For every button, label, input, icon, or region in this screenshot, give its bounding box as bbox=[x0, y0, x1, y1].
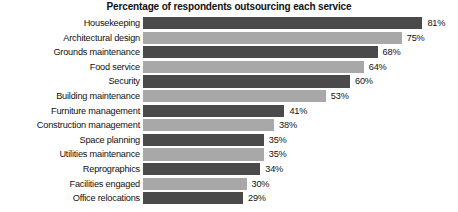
bar-row: Reprographics34% bbox=[0, 163, 458, 178]
bar-category-label: Facilities engaged bbox=[0, 178, 140, 190]
bar-row: Furniture management41% bbox=[0, 105, 458, 120]
bar-track: 81% bbox=[143, 17, 458, 29]
bar-row: Construction management38% bbox=[0, 119, 458, 134]
bar bbox=[143, 105, 284, 117]
bar-track: 38% bbox=[143, 119, 458, 131]
bar-category-label: Architectural design bbox=[0, 32, 140, 44]
bar-value-label: 34% bbox=[265, 163, 283, 175]
bar-value-label: 64% bbox=[369, 61, 387, 73]
bar-row: Food service64% bbox=[0, 61, 458, 76]
bar-category-label: Grounds maintenance bbox=[0, 46, 140, 58]
bar bbox=[143, 178, 247, 190]
bar-category-label: Building maintenance bbox=[0, 90, 140, 102]
bar-value-label: 60% bbox=[355, 75, 373, 87]
bar-category-label: Security bbox=[0, 75, 140, 87]
bar-category-label: Construction management bbox=[0, 119, 140, 131]
bar-value-label: 75% bbox=[407, 32, 425, 44]
bar-row: Security60% bbox=[0, 75, 458, 90]
bar-value-label: 35% bbox=[269, 148, 287, 160]
bar bbox=[143, 17, 422, 29]
bar-track: 75% bbox=[143, 32, 458, 44]
bar bbox=[143, 192, 243, 204]
bar-track: 29% bbox=[143, 192, 458, 204]
bar-row: Housekeeping81% bbox=[0, 17, 458, 32]
bar bbox=[143, 75, 350, 87]
bar-value-label: 29% bbox=[248, 192, 266, 204]
bar-track: 35% bbox=[143, 148, 458, 160]
bar bbox=[143, 163, 260, 175]
bar-track: 30% bbox=[143, 178, 458, 190]
bar bbox=[143, 32, 402, 44]
bar-category-label: Office relocations bbox=[0, 192, 140, 204]
chart-title: Percentage of respondents outsourcing ea… bbox=[0, 1, 458, 12]
bar-track: 53% bbox=[143, 90, 458, 102]
bar bbox=[143, 46, 378, 58]
bar-row: Grounds maintenance68% bbox=[0, 46, 458, 61]
bar-category-label: Furniture management bbox=[0, 105, 140, 117]
bar-track: 35% bbox=[143, 134, 458, 146]
bar-value-label: 35% bbox=[269, 134, 287, 146]
bar-category-label: Utilities maintenance bbox=[0, 148, 140, 160]
bar-value-label: 41% bbox=[289, 105, 307, 117]
bar bbox=[143, 119, 274, 131]
bar-category-label: Space planning bbox=[0, 134, 140, 146]
bar-row: Architectural design75% bbox=[0, 32, 458, 47]
bar-category-label: Reprographics bbox=[0, 163, 140, 175]
bar-category-label: Housekeeping bbox=[0, 17, 140, 29]
bar-track: 64% bbox=[143, 61, 458, 73]
bar-value-label: 38% bbox=[279, 119, 297, 131]
bar-chart: Percentage of respondents outsourcing ea… bbox=[0, 0, 458, 212]
chart-plot-area: Housekeeping81%Architectural design75%Gr… bbox=[0, 17, 458, 207]
bar-row: Utilities maintenance35% bbox=[0, 148, 458, 163]
bar bbox=[143, 134, 264, 146]
bar bbox=[143, 61, 364, 73]
bar-value-label: 30% bbox=[252, 178, 270, 190]
bar-row: Facilities engaged30% bbox=[0, 178, 458, 193]
bar bbox=[143, 148, 264, 160]
bar-row: Office relocations29% bbox=[0, 192, 458, 207]
bar-track: 41% bbox=[143, 105, 458, 117]
bar-category-label: Food service bbox=[0, 61, 140, 73]
bar-row: Building maintenance53% bbox=[0, 90, 458, 105]
bar-track: 60% bbox=[143, 75, 458, 87]
bar-track: 68% bbox=[143, 46, 458, 58]
bar-track: 34% bbox=[143, 163, 458, 175]
bar bbox=[143, 90, 326, 102]
bar-value-label: 53% bbox=[331, 90, 349, 102]
bar-row: Space planning35% bbox=[0, 134, 458, 149]
bar-value-label: 81% bbox=[427, 17, 445, 29]
bar-value-label: 68% bbox=[383, 46, 401, 58]
